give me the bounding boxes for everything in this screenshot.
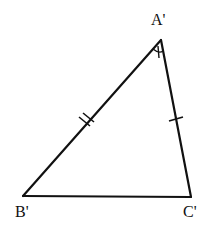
side-b-c <box>23 196 191 197</box>
side-a-b <box>23 40 161 196</box>
double-tick-mark-icon <box>79 113 94 126</box>
vertex-label-a: A' <box>151 12 165 28</box>
vertex-label-b: B' <box>15 204 29 220</box>
vertex-label-c: C' <box>183 204 197 220</box>
triangle-figure <box>0 0 209 232</box>
triangle-diagram: A' B' C' <box>0 0 209 232</box>
